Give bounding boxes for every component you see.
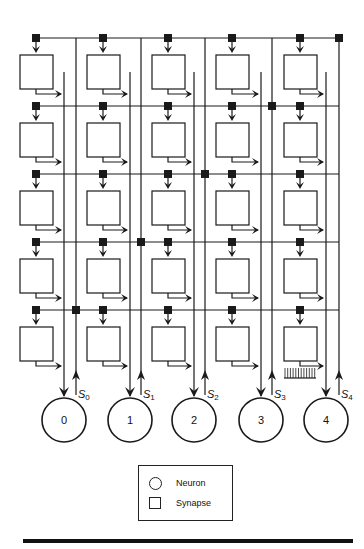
synapse-square (164, 238, 172, 246)
synapse-square (228, 102, 236, 110)
synapse-weight-box (284, 259, 317, 293)
feedback-label-s0: S0 (78, 388, 90, 402)
synapse-square (296, 34, 304, 42)
synapse-weight-box (284, 191, 317, 225)
synapse-weight-box (216, 259, 249, 293)
synapse-weight-box (20, 123, 53, 157)
feedback-label-s1: S1 (143, 388, 155, 402)
synapse-square (32, 34, 40, 42)
synapse-square (228, 34, 236, 42)
synapse-square (32, 306, 40, 314)
synapse-square (164, 102, 172, 110)
synapse-weight-box (87, 123, 120, 157)
feedback-junction-square (201, 170, 209, 178)
synapse-square (164, 306, 172, 314)
synapse-weight-box (87, 259, 120, 293)
synapse-square (296, 306, 304, 314)
synapse-square (228, 238, 236, 246)
neuron-label: 2 (191, 414, 197, 426)
synapse-weight-box (216, 191, 249, 225)
synapse-weight-box (284, 123, 317, 157)
neuron-circle-icon (149, 477, 162, 490)
feedback-junction-square (268, 102, 276, 110)
feedback-junction-square (72, 306, 80, 314)
legend-label-neuron: Neuron (176, 478, 206, 488)
synapse-weight-box (284, 327, 317, 361)
feedback-label-s4: S4 (341, 388, 353, 402)
synapse-square (32, 102, 40, 110)
neuron-label: 0 (61, 414, 67, 426)
synapse-weight-box (152, 191, 185, 225)
synapse-weight-box (216, 327, 249, 361)
synapse-weight-box (87, 55, 120, 89)
synapse-square (296, 238, 304, 246)
synapse-square-icon (149, 497, 161, 509)
synapse-square (296, 102, 304, 110)
legend-item-synapse: Synapse (149, 495, 211, 511)
legend-box: Neuron Synapse (138, 465, 233, 521)
synapse-weight-box (87, 327, 120, 361)
synapse-square (99, 306, 107, 314)
horizontal-rule (23, 539, 353, 543)
feedback-junction-square (137, 238, 145, 246)
synapse-weight-box (152, 55, 185, 89)
synapse-square (296, 170, 304, 178)
neuron-label: 1 (127, 414, 133, 426)
synapse-square (99, 34, 107, 42)
synapse-square (164, 170, 172, 178)
legend-label-synapse: Synapse (176, 498, 211, 508)
synapse-weight-box (216, 55, 249, 89)
synapse-weight-box (20, 327, 53, 361)
neuron-label: 4 (323, 414, 329, 426)
synapse-weight-box (87, 191, 120, 225)
synapse-square (228, 306, 236, 314)
legend-item-neuron: Neuron (149, 475, 206, 491)
synapse-weight-box (284, 55, 317, 89)
synapse-square (99, 102, 107, 110)
synapse-weight-box (20, 191, 53, 225)
synapse-weight-box (152, 259, 185, 293)
synapse-square (228, 170, 236, 178)
synapse-weight-box (152, 123, 185, 157)
synapse-square (99, 170, 107, 178)
neuron-label: 3 (258, 414, 264, 426)
synapse-square (32, 170, 40, 178)
synapse-weight-box (20, 259, 53, 293)
synapse-weight-box (152, 327, 185, 361)
feedback-junction-square (335, 34, 343, 42)
feedback-label-s2: S2 (207, 388, 219, 402)
synapse-weight-box (216, 123, 249, 157)
synapse-square (99, 238, 107, 246)
feedback-label-s3: S3 (274, 388, 286, 402)
synapse-square (164, 34, 172, 42)
synapse-weight-box (20, 55, 53, 89)
synapse-square (32, 238, 40, 246)
